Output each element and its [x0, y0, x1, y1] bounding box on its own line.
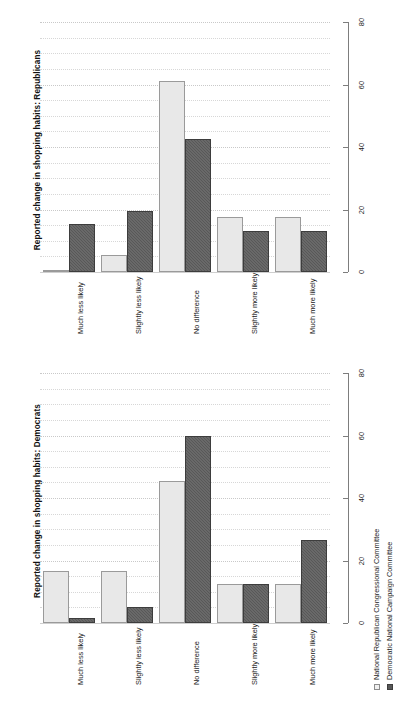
axis-tick	[343, 210, 348, 211]
bar-group	[101, 22, 153, 272]
panel-democrats: Reported change in shopping habits: Demo…	[0, 351, 376, 701]
legend-item: National Republican Congressional Commit…	[372, 529, 381, 690]
axis-tick	[343, 272, 348, 273]
bar-group	[275, 22, 327, 272]
category-label: Much less likely	[73, 595, 87, 685]
category-label: Much less likely	[73, 244, 87, 334]
panel-republicans: Reported change in shopping habits: Repu…	[0, 0, 376, 350]
plot-area-republicans	[40, 22, 330, 272]
plot-area-democrats	[40, 373, 330, 623]
axis-tick	[343, 147, 348, 148]
category-label: Slightly more likely	[247, 244, 261, 334]
axis-tick	[343, 561, 348, 562]
bar	[43, 571, 69, 623]
bar	[217, 584, 243, 623]
axis-tick	[343, 22, 348, 23]
bar	[159, 81, 185, 272]
bar	[159, 481, 185, 623]
legend-label: Democratic National Campaign Committee	[385, 542, 394, 680]
axis-tick-label: 0	[356, 261, 366, 283]
bar-group	[275, 373, 327, 623]
category-label: No difference	[189, 244, 203, 334]
axis-tick-label: 60	[356, 74, 366, 96]
axis-tick-label: 80	[356, 362, 366, 384]
bar	[217, 217, 243, 272]
bar-group	[217, 22, 269, 272]
bar	[101, 255, 127, 272]
bar-group	[43, 373, 95, 623]
bar-group	[101, 373, 153, 623]
legend-swatch-icon	[374, 684, 380, 690]
bar	[43, 270, 69, 273]
axis-tick-label: 0	[356, 612, 366, 634]
bar-group	[159, 22, 211, 272]
category-label: Much more likely	[305, 244, 319, 334]
category-label: No difference	[189, 595, 203, 685]
axis-tick	[343, 498, 348, 499]
bar	[275, 584, 301, 623]
axis-tick-label: 60	[356, 425, 366, 447]
axis-tick-label: 20	[356, 550, 366, 572]
category-label: Slightly less likely	[131, 244, 145, 334]
axis-tick	[343, 436, 348, 437]
bar	[275, 217, 301, 272]
value-axis-line-republicans	[348, 22, 349, 272]
category-label: Much more likely	[305, 595, 319, 685]
axis-tick-label: 80	[356, 11, 366, 33]
axis-tick	[343, 623, 348, 624]
bar-group	[217, 373, 269, 623]
value-axis-line-democrats	[348, 373, 349, 623]
legend: National Republican Congressional Commit…	[372, 529, 394, 690]
category-label: Slightly less likely	[131, 595, 145, 685]
legend-label: National Republican Congressional Commit…	[372, 529, 381, 680]
axis-tick	[343, 85, 348, 86]
axis-tick-label: 40	[356, 136, 366, 158]
bar-group	[43, 22, 95, 272]
bar	[101, 571, 127, 623]
category-label: Slightly more likely	[247, 595, 261, 685]
legend-item: Democratic National Campaign Committee	[385, 529, 394, 690]
bar-group	[159, 373, 211, 623]
axis-tick-label: 20	[356, 199, 366, 221]
legend-swatch-icon	[387, 684, 393, 690]
axis-tick-label: 40	[356, 487, 366, 509]
axis-tick	[343, 373, 348, 374]
